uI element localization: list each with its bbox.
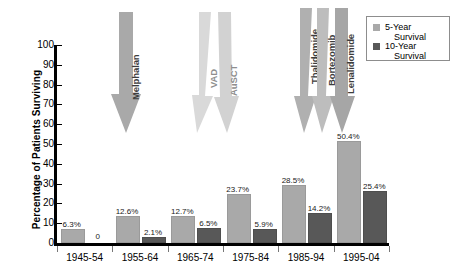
y-tick-mark	[57, 164, 62, 165]
y-tick-mark	[57, 203, 62, 204]
bar-value-label: 12.7%	[165, 207, 199, 216]
x-axis-line	[54, 243, 389, 246]
y-tick-label: 0	[30, 237, 54, 248]
x-axis-label: 1965-74	[168, 252, 223, 263]
y-tick-mark	[57, 243, 62, 244]
y-axis-line	[54, 45, 57, 245]
melphalan-arrow: Melphalan	[110, 12, 142, 134]
ausct-arrow-label: AuSCT	[228, 65, 239, 96]
bar-5-year	[227, 194, 251, 243]
legend-label-10-year: 10-Year Survival	[385, 41, 426, 61]
legend-item-5-year: 5-Year Survival	[373, 22, 426, 42]
x-axis-label: 1975-84	[223, 252, 278, 263]
bar-value-label: 2.1%	[136, 228, 170, 237]
legend-label-10-year-line2: Survival	[385, 51, 426, 61]
bar-10-year	[142, 237, 166, 243]
x-tick-mark	[389, 246, 390, 252]
bar-value-label: 5.9%	[247, 220, 281, 229]
bar-10-year	[197, 228, 221, 243]
bar-5-year	[337, 141, 361, 243]
legend-swatch-10-year-icon	[373, 43, 380, 50]
bar-10-year	[253, 229, 277, 243]
y-tick-label: 10	[30, 217, 54, 228]
bar-value-label: 0	[81, 232, 115, 241]
legend-item-10-year: 10-Year Survival	[373, 41, 426, 61]
legend-label-5-year-line1: 5-Year	[385, 22, 411, 32]
bar-10-year	[308, 213, 332, 243]
lenalidomide-arrow-label: Lenalidomide	[345, 34, 356, 94]
y-tick-label: 90	[30, 59, 54, 70]
y-tick-label: 80	[30, 79, 54, 90]
bar-value-label: 12.6%	[110, 207, 144, 216]
legend-label-10-year-line1: 10-Year	[385, 41, 416, 51]
bar-value-label: 25.4%	[357, 182, 391, 191]
x-axis-label: 1985-94	[278, 252, 333, 263]
y-tick-label: 60	[30, 118, 54, 129]
x-axis-label: 1945-54	[57, 252, 112, 263]
bar-value-label: 28.5%	[276, 176, 310, 185]
legend-swatch-5-year-icon	[373, 24, 380, 31]
x-axis-label: 1955-64	[112, 252, 167, 263]
y-tick-label: 50	[30, 138, 54, 149]
y-tick-mark	[57, 144, 62, 145]
x-axis-label: 1995-04	[334, 252, 389, 263]
y-tick-mark	[57, 45, 62, 46]
y-tick-mark	[57, 124, 62, 125]
y-tick-label: 30	[30, 178, 54, 189]
lenalidomide-arrow: Lenalidomide	[328, 8, 356, 134]
y-tick-label: 20	[30, 197, 54, 208]
survival-bar-chart: Percentage of Patients Surviving 0102030…	[0, 0, 459, 276]
bar-value-label: 6.5%	[191, 219, 225, 228]
y-tick-label: 40	[30, 158, 54, 169]
y-tick-label: 100	[30, 39, 54, 50]
y-tick-mark	[57, 65, 62, 66]
y-tick-label: 70	[30, 98, 54, 109]
y-tick-mark	[57, 184, 62, 185]
bar-5-year	[282, 185, 306, 243]
legend-label-5-year: 5-Year Survival	[385, 22, 426, 42]
ausct-arrow: AuSCT	[210, 12, 240, 134]
y-tick-mark	[57, 104, 62, 105]
bar-value-label: 23.7%	[221, 185, 255, 194]
y-tick-mark	[57, 85, 62, 86]
chart-legend: 5-Year Survival 10-Year Survival	[366, 16, 450, 61]
melphalan-arrow-label: Melphalan	[130, 54, 141, 100]
bar-10-year	[363, 191, 387, 243]
bar-value-label: 14.2%	[302, 204, 336, 213]
bar-value-label: 6.3%	[55, 220, 89, 229]
